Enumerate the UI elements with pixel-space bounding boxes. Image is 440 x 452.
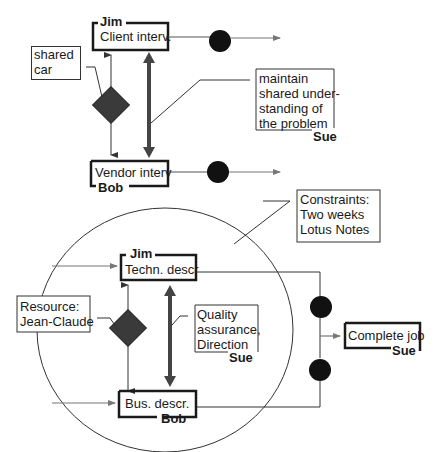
note-line: Lotus Notes: [300, 222, 369, 237]
coordination-double-arrow: [164, 285, 176, 387]
task-owner: Bob: [98, 180, 123, 195]
task-owner: Bob: [161, 411, 186, 426]
shared-resource-diamond: [110, 310, 147, 347]
task-label: Client interv.: [100, 29, 171, 44]
task-owner: Jim: [100, 14, 122, 29]
task-owner: Sue: [392, 343, 416, 358]
task-owner: Jim: [130, 246, 152, 261]
task-label: Bus. descr.: [125, 396, 189, 411]
task-label: Vendor interv: [95, 165, 172, 180]
coordination-double-arrow: [143, 52, 155, 158]
note-line: assurance,: [197, 322, 261, 337]
note-line: Constraints:: [300, 192, 369, 207]
note-owner: Sue: [229, 350, 253, 365]
note-line: shared: [34, 47, 74, 62]
note-line: maintain: [259, 71, 308, 86]
shared-resource-diamond: [93, 87, 130, 124]
task-label: Techn. descr: [125, 262, 199, 277]
note-line: Quality: [197, 307, 237, 322]
milestone-dot: [207, 161, 229, 183]
note-owner: Sue: [313, 129, 337, 144]
note-line: shared under-: [259, 86, 340, 101]
note-line: Resource:: [20, 299, 79, 314]
milestone-dot: [309, 359, 331, 381]
note-line: car: [34, 62, 52, 77]
task-label: Complete job: [348, 328, 425, 343]
note-line: standing of: [259, 101, 323, 116]
milestone-dot: [209, 30, 231, 52]
note-line: Jean-Claude: [20, 314, 94, 329]
milestone-dot: [310, 296, 332, 318]
note-line: Two weeks: [300, 207, 364, 222]
